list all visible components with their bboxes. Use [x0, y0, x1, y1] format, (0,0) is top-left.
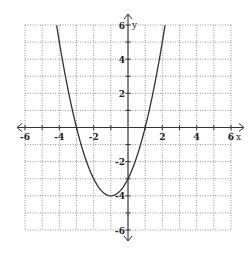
- y-tick-label: 6: [119, 21, 125, 31]
- y-tick-label: 2: [119, 89, 125, 99]
- x-tick-label: -2: [89, 132, 99, 142]
- x-tick-label: -6: [20, 132, 30, 142]
- axes: [17, 14, 244, 241]
- x-tick-label: 4: [194, 132, 200, 142]
- x-tick-label: 2: [159, 132, 165, 142]
- x-tick-label: 6: [228, 132, 234, 142]
- x-tick-label: -4: [54, 132, 64, 142]
- y-tick-label: -4: [115, 191, 125, 201]
- coordinate-plane: -6-4-2246642-2-4-6 x y: [0, 0, 251, 256]
- y-axis-label: y: [131, 20, 138, 30]
- y-tick-label: -2: [115, 157, 125, 167]
- y-tick-label: -6: [115, 226, 125, 236]
- x-axis-label: x: [236, 132, 241, 142]
- y-tick-label: 4: [119, 55, 125, 65]
